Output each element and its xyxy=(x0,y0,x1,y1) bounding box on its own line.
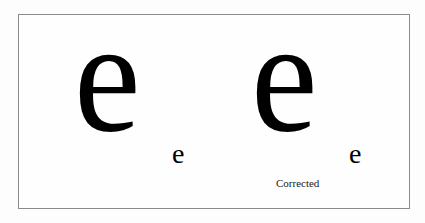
small-e-original: e xyxy=(172,140,184,168)
large-e-original: e xyxy=(74,0,141,156)
corrected-caption: Corrected xyxy=(276,177,319,189)
large-e-corrected: e xyxy=(251,0,318,156)
small-e-corrected: e xyxy=(349,140,361,168)
